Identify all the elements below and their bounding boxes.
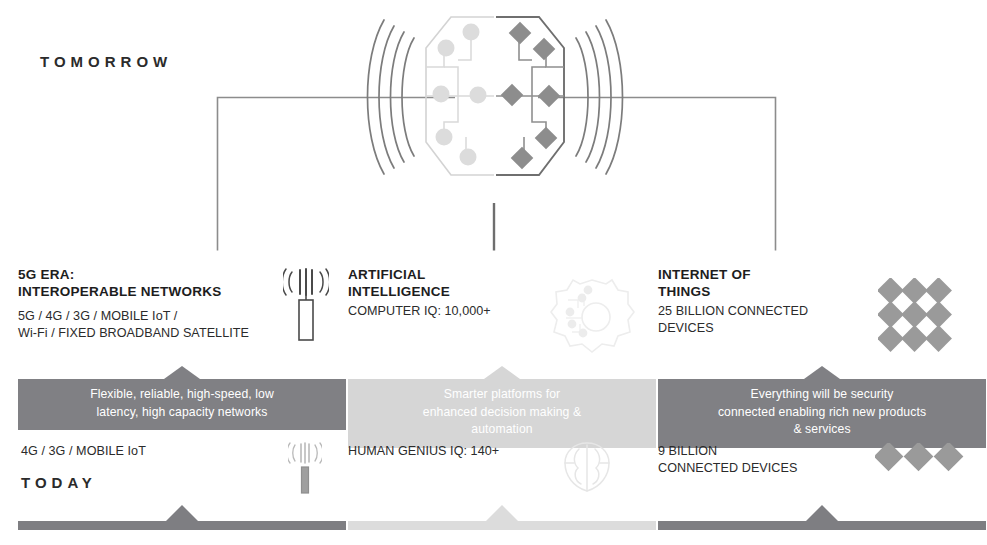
today-iot-line2: CONNECTED DEVICES: [658, 460, 797, 477]
band-ai-notch: [484, 366, 520, 379]
today-era-label: TODAY: [21, 474, 97, 491]
band-ai-line3: automation: [362, 421, 642, 439]
rail-5g-bar: [18, 521, 346, 530]
band-5g-text: Flexible, reliable, high-speed, low late…: [18, 379, 346, 430]
gear-network-icon: [548, 276, 636, 358]
cell-tower-signal-icon-faded: [288, 441, 322, 495]
split-hexagon-network-signal-icon: [366, 2, 624, 192]
rail-ai: [348, 505, 656, 530]
band-iot-line1: Everything will be security: [672, 386, 972, 404]
tomorrow-era-label: TOMORROW: [40, 53, 172, 70]
rail-ai-bar: [348, 521, 656, 530]
rail-iot-notch: [806, 505, 838, 521]
band-iot-text: Everything will be security connected en…: [658, 379, 986, 448]
infographic-canvas: TOMORROW TODAY: [0, 0, 987, 545]
rail-ai-notch: [486, 505, 518, 521]
rail-iot: [658, 505, 986, 530]
band-5g: Flexible, reliable, high-speed, low late…: [18, 366, 346, 430]
today-iot-line1: 9 BILLION: [658, 443, 797, 460]
today-ai-text: HUMAN GENIUS IQ: 140+: [348, 443, 499, 460]
today-iot-text: 9 BILLION CONNECTED DEVICES: [658, 443, 797, 476]
diamond-row-icon: [875, 443, 967, 477]
band-iot-line3: & services: [672, 421, 972, 439]
band-ai-line2: enhanced decision making &: [362, 404, 642, 422]
band-ai: Smarter platforms for enhanced decision …: [348, 366, 656, 448]
band-iot-line2: connected enabling rich new products: [672, 404, 972, 422]
rail-5g-notch: [166, 505, 198, 521]
band-5g-line1: Flexible, reliable, high-speed, low: [32, 386, 332, 404]
today-5g-text: 4G / 3G / MOBILE IoT: [21, 443, 146, 460]
band-ai-line1: Smarter platforms for: [362, 386, 642, 404]
band-5g-line2: latency, high capacity networks: [32, 404, 332, 422]
diamond-grid-icon: [878, 278, 952, 352]
today-ai-line1: HUMAN GENIUS IQ: 140+: [348, 443, 499, 460]
band-iot: Everything will be security connected en…: [658, 366, 986, 448]
band-5g-notch: [164, 366, 200, 379]
rail-iot-bar: [658, 521, 986, 530]
today-5g-line1: 4G / 3G / MOBILE IoT: [21, 443, 146, 460]
brain-icon: [553, 437, 621, 501]
rail-5g: [18, 505, 346, 530]
band-iot-notch: [804, 366, 840, 379]
cell-tower-signal-icon: [283, 266, 329, 342]
